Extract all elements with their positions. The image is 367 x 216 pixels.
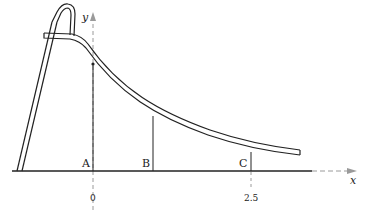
diagram-canvas: A B C 0 2.5 x y <box>0 0 367 216</box>
ladder-handle-inner <box>57 8 71 35</box>
y-axis-arrow-icon <box>90 12 96 21</box>
slide-surface-top <box>88 44 300 150</box>
y-axis-label: y <box>81 11 89 24</box>
label-C: C <box>239 157 247 170</box>
tick-label-2-5: 2.5 <box>244 193 259 203</box>
x-axis-label: x <box>350 174 357 187</box>
label-A: A <box>81 157 91 170</box>
slide-diagram: A B C 0 2.5 x y <box>0 0 367 216</box>
tick-label-0: 0 <box>90 193 96 203</box>
label-B: B <box>142 157 150 170</box>
point-on-y-axis <box>91 62 94 65</box>
slide-surface-bottom <box>86 48 300 155</box>
slide-platform-lower <box>44 33 86 48</box>
ladder-rail-inner <box>22 22 57 171</box>
ladder-rail-outer <box>17 22 52 171</box>
